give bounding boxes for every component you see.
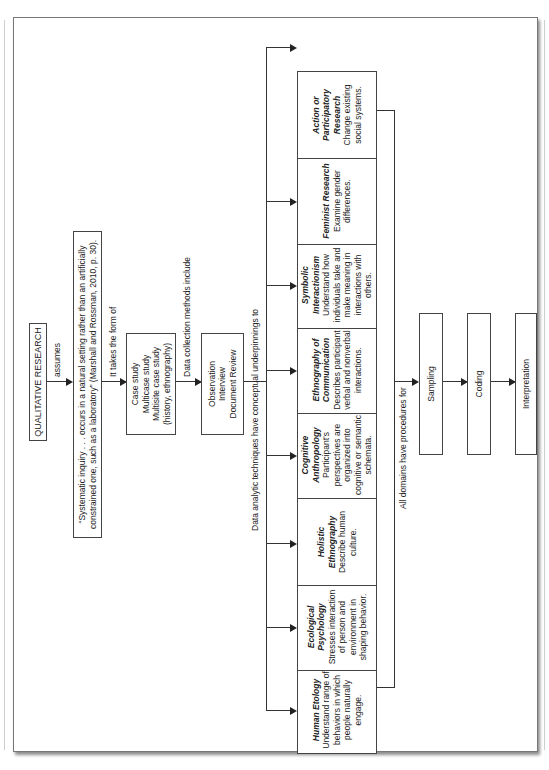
left-margin-line xyxy=(4,20,5,750)
domain-desc: Stresses interaction of person and envir… xyxy=(327,586,369,668)
branch-drop xyxy=(266,201,292,202)
domain-desc: Understand range of behaviors in which p… xyxy=(321,669,363,751)
domain-title: Feminist Research xyxy=(321,163,332,239)
edge-label-data-analytic: Data analytic techniques have conceptual… xyxy=(250,309,260,531)
collector-stub xyxy=(377,687,394,688)
collector-bus xyxy=(394,110,395,688)
arrow-icon xyxy=(290,452,297,460)
form-item: (history, ethnography) xyxy=(162,343,173,425)
domain-box-ethnography-of-communication: Ethnography of Communication Describes p… xyxy=(297,326,377,414)
figure-page: QUALITATIVE RESEARCH assumes “Systematic… xyxy=(13,17,538,752)
procedure-label: Sampling xyxy=(426,366,437,401)
branch-drop xyxy=(266,455,292,456)
method-item: Observation xyxy=(207,361,218,407)
domain-desc: Describe human culture. xyxy=(337,501,358,583)
methods-box: Observation Interview Document Review xyxy=(201,333,244,435)
arrow-icon xyxy=(290,198,297,206)
edge-label-all-domains: All domains have procedures for xyxy=(398,387,408,509)
domain-title: Holistic Ethnography xyxy=(316,501,337,583)
domain-box-human-etology: Human Etology Understand range of behavi… xyxy=(297,666,377,754)
domain-box-feminist-research: Feminist Research Examine gender differe… xyxy=(297,157,377,245)
procedure-box-interpretation: Interpretation xyxy=(515,313,537,455)
method-item: Document Review xyxy=(228,350,239,419)
domain-box-ecological-psychology: Ecological Psychology Stresses interacti… xyxy=(297,583,377,671)
domain-title: Human Etology xyxy=(311,679,322,741)
domain-box-holistic-ethnography: Holistic Ethnography Describe human cult… xyxy=(297,498,377,586)
procedure-box-sampling: Sampling xyxy=(419,313,443,455)
quote-line-1: “Systematic inquiry . . . occurs in a na… xyxy=(77,246,88,524)
collector-stub xyxy=(377,110,394,111)
domain-title: Action or Participatory Research xyxy=(311,74,343,156)
form-item: Case study xyxy=(130,363,141,406)
arrow-icon xyxy=(66,378,73,386)
form-item: Multicase study xyxy=(141,355,152,414)
edge-label-data-collection: Data collection methods include xyxy=(182,257,192,377)
arrow-icon xyxy=(290,707,297,715)
branch-drop xyxy=(266,710,292,711)
arrow-icon xyxy=(290,540,297,548)
domain-title: Cognitive Anthropology xyxy=(300,414,321,496)
forms-box: Case study Multicase study Multisite cas… xyxy=(126,333,176,435)
domain-title: Symbolic Interactionism xyxy=(300,244,321,326)
domain-desc: Participant’s perspectives are organized… xyxy=(321,414,374,496)
procedure-box-coding: Coding xyxy=(467,313,491,455)
procedure-label: Coding xyxy=(474,371,485,398)
arrow-icon xyxy=(290,624,297,632)
quote-box: “Systematic inquiry . . . occurs in a na… xyxy=(73,231,102,538)
arrow-icon xyxy=(290,44,297,52)
domain-desc: Examine gender differences. xyxy=(332,160,353,242)
method-item: Interview xyxy=(217,367,228,401)
domain-box-symbolic-interactionism: Symbolic Interactionism Understand how i… xyxy=(297,241,377,329)
arrow-icon xyxy=(290,367,297,375)
branch-drop xyxy=(266,285,292,286)
right-margin-line xyxy=(544,20,545,750)
branch-bus xyxy=(266,48,267,711)
rotated-flowchart: QUALITATIVE RESEARCH assumes “Systematic… xyxy=(14,18,537,751)
arrow-icon xyxy=(412,378,419,386)
domain-title: Ethnography of Communication xyxy=(311,329,332,411)
domain-desc: Describes participant verbal and nonverb… xyxy=(332,329,364,411)
branch-drop xyxy=(266,370,292,371)
domain-title: Ecological Psychology xyxy=(306,586,327,668)
domain-box-action-research: Action or Participatory Research Change … xyxy=(297,71,377,159)
branch-drop xyxy=(266,543,292,544)
procedure-label: Interpretation xyxy=(521,359,532,409)
edge-label-takes-form: It takes the form of xyxy=(108,307,118,377)
root-box: QUALITATIVE RESEARCH xyxy=(29,323,47,441)
quote-line-2: constrained one, such as a laboratory” (… xyxy=(88,240,99,529)
branch-drop xyxy=(266,627,292,628)
edge-label-assumes: assumes xyxy=(52,343,62,377)
branch-drop xyxy=(266,47,292,48)
domain-desc: Change existing social systems. xyxy=(342,74,363,156)
form-item: Multisite case study xyxy=(151,347,162,421)
domain-desc: Understand how individuals take and make… xyxy=(321,244,374,326)
root-label: QUALITATIVE RESEARCH xyxy=(33,327,44,437)
arrow-icon xyxy=(290,282,297,290)
domain-box-cognitive-anthropology: Cognitive Anthropology Participant’s per… xyxy=(297,411,377,499)
